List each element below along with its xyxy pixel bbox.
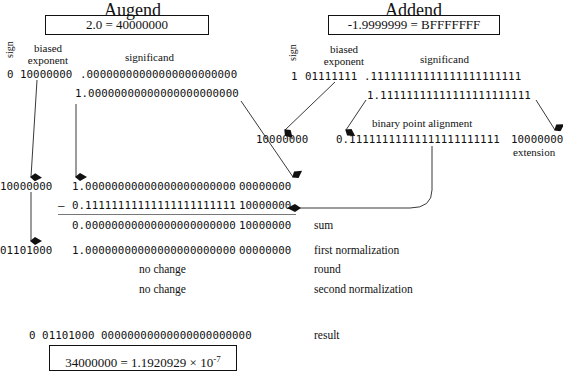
arrow-aligned-to-subtract: [300, 146, 432, 208]
arrow-augend-exponent: [31, 80, 37, 177]
arrow-addend-exponent: [285, 82, 335, 130]
arrow-addend-extension: [536, 100, 555, 130]
flow-arrows: [0, 0, 563, 380]
arrow-augend-extension: [241, 101, 293, 177]
arrow-addend-significand: [346, 100, 366, 130]
